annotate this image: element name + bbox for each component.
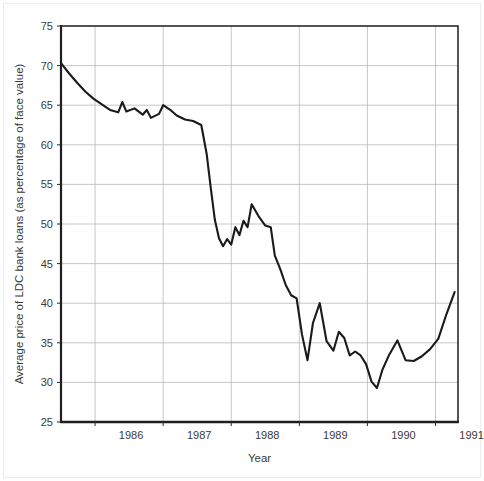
y-axis-tick-labels: 2530354045505560657075 bbox=[41, 20, 53, 428]
y-tick-label-40: 40 bbox=[41, 297, 53, 309]
x-tick-label-1986: 1986 bbox=[119, 429, 143, 441]
y-tick-label-65: 65 bbox=[41, 99, 53, 111]
x-axis-title: Year bbox=[248, 452, 271, 464]
y-tick-label-50: 50 bbox=[41, 218, 53, 230]
x-tick-label-1989: 1989 bbox=[323, 429, 347, 441]
x-tick-label-1991: 1991 bbox=[459, 429, 483, 441]
y-tick-label-25: 25 bbox=[41, 416, 53, 428]
line-chart: 2530354045505560657075 19861987198819891… bbox=[0, 0, 484, 481]
chart-figure: 2530354045505560657075 19861987198819891… bbox=[0, 0, 484, 481]
y-tick-label-35: 35 bbox=[41, 337, 53, 349]
y-axis-title: Average price of LDC bank loans (as perc… bbox=[13, 63, 25, 384]
y-tick-label-70: 70 bbox=[41, 60, 53, 72]
x-axis-tick-labels: 198619871988198919901991 bbox=[119, 429, 484, 441]
x-tick-label-1990: 1990 bbox=[391, 429, 415, 441]
x-tick-label-1987: 1987 bbox=[187, 429, 211, 441]
x-tick-label-1988: 1988 bbox=[255, 429, 279, 441]
y-tick-label-75: 75 bbox=[41, 20, 53, 32]
y-tick-label-55: 55 bbox=[41, 178, 53, 190]
y-tick-label-60: 60 bbox=[41, 139, 53, 151]
y-tick-label-30: 30 bbox=[41, 376, 53, 388]
y-tick-label-45: 45 bbox=[41, 258, 53, 270]
